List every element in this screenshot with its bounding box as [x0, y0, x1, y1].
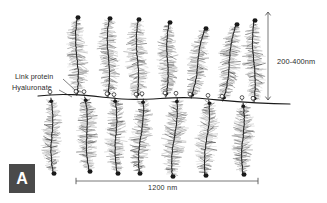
vertical-scale-label: 200-400nm — [277, 58, 315, 65]
panel-label-text: A — [16, 171, 28, 187]
link-protein-marker — [105, 92, 109, 96]
g1-domain-lower-4 — [141, 101, 145, 104]
g1-domain-lower-6 — [208, 102, 212, 105]
terminal-globule-upper-1 — [76, 15, 81, 19]
horizontal-scale-label: 1200 nm — [148, 184, 177, 191]
link-protein-label: Link protein — [15, 73, 53, 80]
proteoglycan-aggregate-figure: Link protein Hyaluronate 200-400nm 1200 … — [0, 0, 327, 203]
figure-canvas — [0, 0, 327, 203]
terminal-globule-upper-6 — [235, 22, 240, 26]
hyaluronate-label: Hyaluronate — [12, 84, 52, 91]
link-protein-marker — [220, 94, 224, 98]
hyaluronate-leader-line — [59, 90, 72, 97]
g1-domain-lower-3 — [113, 100, 117, 103]
terminal-globule-lower-5 — [171, 174, 176, 178]
link-protein-marker — [82, 90, 86, 94]
g1-domain-lower-5 — [175, 100, 179, 103]
terminal-globule-upper-7 — [253, 18, 258, 22]
link-protein-marker — [240, 96, 244, 100]
link-protein-marker — [140, 92, 144, 96]
link-protein-marker — [188, 92, 192, 96]
g1-domain-lower-7 — [241, 104, 245, 107]
link-protein-marker — [112, 93, 116, 97]
link-protein-marker — [206, 93, 210, 97]
link-protein-marker — [251, 96, 255, 100]
monomer-bristles-lower-5 — [161, 100, 188, 175]
link-protein-leader-line — [63, 79, 75, 90]
link-protein-marker — [174, 91, 178, 95]
terminal-globule-upper-4 — [168, 20, 173, 24]
terminal-globule-lower-1 — [52, 171, 57, 175]
panel-label-badge: A — [9, 164, 35, 193]
link-protein-marker — [163, 91, 167, 95]
terminal-globule-lower-4 — [138, 171, 143, 175]
terminal-globule-lower-2 — [88, 169, 93, 173]
terminal-globule-lower-3 — [116, 171, 121, 175]
glycosaminoglycan-bristles-layer — [41, 20, 266, 176]
terminal-globule-upper-3 — [137, 17, 142, 21]
link-protein-marker — [134, 92, 138, 96]
g1-domain-lower-2 — [84, 99, 88, 102]
g1-domain-lower-1 — [49, 100, 53, 103]
terminal-globule-lower-6 — [204, 173, 209, 177]
terminal-globule-upper-2 — [108, 16, 113, 20]
terminal-globule-lower-7 — [242, 172, 247, 176]
terminal-globule-upper-5 — [204, 26, 209, 30]
